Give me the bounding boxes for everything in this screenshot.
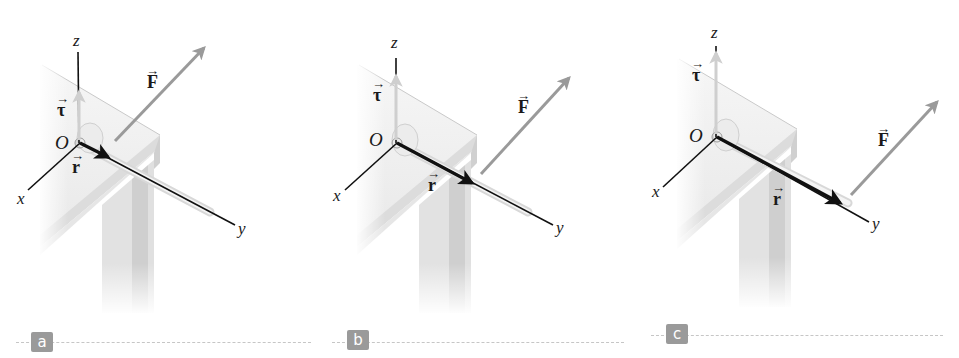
torque-wrench-figure: z x y O →r →F →τ z x y O →r →F →τ z x y … <box>0 0 959 358</box>
y-axis-label: y <box>556 219 564 236</box>
force-vector <box>115 48 204 141</box>
panel-c-separator <box>651 335 943 336</box>
r-vector-label: →r <box>773 190 781 208</box>
vector-arrow-accent: → <box>517 89 530 102</box>
z-axis-label: z <box>73 32 80 49</box>
vector-arrow-accent: → <box>372 77 385 90</box>
f-vector-label: →F <box>518 98 529 116</box>
figure-graphics <box>0 0 959 358</box>
panel-a-separator <box>16 342 311 343</box>
panel-c <box>663 46 937 309</box>
origin-label: O <box>689 126 703 145</box>
tau-vector-label: →τ <box>57 101 65 119</box>
vector-arrow-accent: → <box>691 57 704 70</box>
f-vector-label: →F <box>147 73 158 91</box>
vector-arrow-accent: → <box>877 122 890 135</box>
origin-label: O <box>369 130 383 149</box>
z-axis-label: z <box>391 34 398 51</box>
origin-label: O <box>55 133 69 152</box>
vector-arrow-accent: → <box>772 181 785 194</box>
f-vector-label: →F <box>878 131 889 149</box>
y-axis-label: y <box>238 220 246 237</box>
tau-vector-label: →τ <box>692 66 700 84</box>
y-axis-label: y <box>872 215 880 232</box>
r-vector-label: →r <box>428 176 436 194</box>
panel-c-badge: c <box>666 324 688 344</box>
r-vector-label: →r <box>72 158 80 176</box>
panel-b-separator <box>332 342 624 343</box>
tau-vector-label: →τ <box>373 86 381 104</box>
panel-b-badge: b <box>347 330 369 350</box>
z-axis-label: z <box>711 24 718 41</box>
force-vector <box>851 102 937 195</box>
vector-arrow-accent: → <box>56 92 69 105</box>
vector-arrow-accent: → <box>146 64 159 77</box>
x-axis-label: x <box>652 183 660 200</box>
vector-arrow-accent: → <box>427 167 440 180</box>
panel-a <box>28 48 235 315</box>
vector-arrow-accent: → <box>71 149 84 162</box>
x-axis-label: x <box>17 190 25 207</box>
x-axis-label: x <box>333 187 341 204</box>
panel-a-badge: a <box>31 332 53 352</box>
